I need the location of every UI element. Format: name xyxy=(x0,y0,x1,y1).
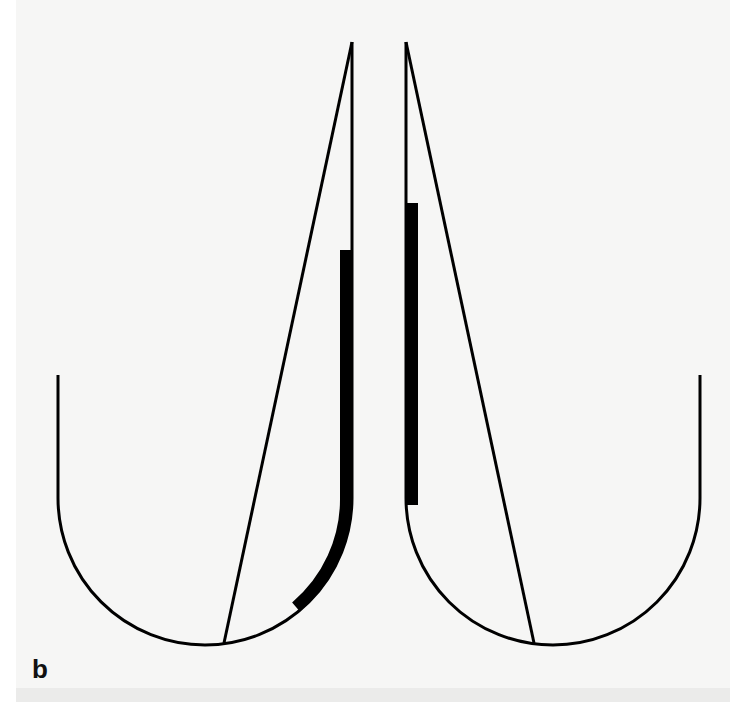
right-thick-bar xyxy=(405,203,418,505)
right-u-curve xyxy=(406,42,700,645)
panel-label: b xyxy=(32,654,48,684)
left-thick-bar xyxy=(296,250,346,607)
right-diagonal-line xyxy=(406,42,534,643)
diagram-canvas xyxy=(0,0,730,702)
right-shape xyxy=(405,42,700,645)
left-u-curve xyxy=(58,42,352,645)
left-shape xyxy=(58,42,352,645)
